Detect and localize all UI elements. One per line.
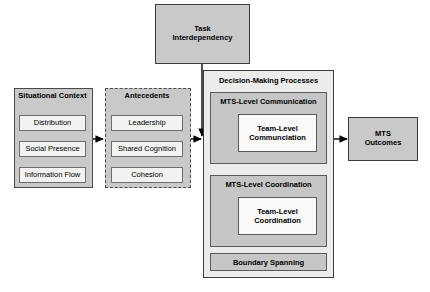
mts-outcomes-node[interactable]: MTS Outcomes — [348, 117, 418, 161]
antecedents-item-leadership[interactable]: Leadership — [111, 115, 183, 131]
task-interdependency-label-line2: Interdependency — [172, 34, 232, 43]
situational-context-item-distribution[interactable]: Distribution — [19, 115, 86, 131]
team-level-coordination-label-line2: Coordination — [254, 216, 301, 225]
situational-context-item-information-flow[interactable]: Information Flow — [19, 167, 86, 183]
team-level-coordination-label-line1: Team-Level — [254, 207, 301, 216]
team-level-communication-label-line1: Team-Level — [249, 124, 306, 133]
team-level-coordination-node[interactable]: Team-Level Coordination — [238, 197, 317, 235]
mts-level-coordination-title: MTS-Level Coordination — [210, 180, 327, 189]
decision-making-processes-title: Decision-Making Processes — [203, 76, 334, 85]
situational-context-title: Situational Context — [14, 92, 91, 101]
boundary-spanning-node[interactable]: Boundary Spanning — [210, 253, 327, 271]
boundary-spanning-label: Boundary Spanning — [233, 258, 304, 267]
diagram-canvas: Task Interdependency Situational Context… — [0, 0, 430, 292]
situational-context-item-social-presence[interactable]: Social Presence — [19, 141, 86, 157]
antecedents-title: Antecedents — [105, 92, 189, 101]
antecedents-item-shared-cognition[interactable]: Shared Cognition — [111, 141, 183, 157]
team-level-communication-label-line2: Communciation — [249, 133, 306, 142]
mts-outcomes-label-line2: Outcomes — [365, 139, 402, 148]
antecedents-item-cohesion[interactable]: Cohesion — [111, 167, 183, 183]
task-interdependency-node[interactable]: Task Interdependency — [155, 4, 250, 64]
mts-level-communication-title: MTS-Level Communication — [210, 97, 327, 106]
team-level-communication-node[interactable]: Team-Level Communciation — [238, 114, 317, 152]
